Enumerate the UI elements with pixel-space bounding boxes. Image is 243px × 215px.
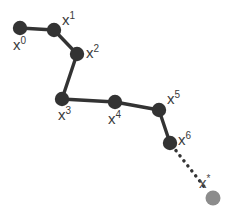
- point-label-base: x: [58, 106, 66, 123]
- point-label-x5: x5: [167, 90, 180, 106]
- iterate-point-marker: [70, 47, 84, 61]
- optimization-path-diagram: x0x1x2x3x4x5x6x*: [0, 0, 243, 215]
- point-label-superscript: 3: [66, 105, 72, 116]
- point-label-base: x: [167, 90, 175, 107]
- point-label-x1: x1: [62, 11, 75, 27]
- iterate-point-marker: [47, 23, 61, 37]
- point-label-base: x: [13, 36, 21, 53]
- point-label-x3: x3: [58, 106, 71, 122]
- point-label-base: x: [108, 110, 116, 127]
- target-point-marker: [206, 191, 221, 206]
- point-label-x0: x0: [13, 36, 26, 52]
- point-label-base: x: [199, 174, 207, 191]
- point-label-x4: x4: [108, 110, 121, 126]
- iterate-point-marker: [163, 136, 177, 150]
- point-label-base: x: [86, 44, 94, 61]
- point-label-superscript: 0: [21, 35, 27, 46]
- path-segment: [62, 99, 115, 102]
- point-label-x6: x6: [178, 131, 191, 147]
- point-label-superscript: 2: [94, 43, 100, 54]
- point-label-superscript: 5: [175, 89, 181, 100]
- iterate-point-marker: [108, 95, 122, 109]
- point-label-base: x: [178, 131, 186, 148]
- point-label-base: x: [62, 11, 70, 28]
- iterate-point-marker: [152, 103, 166, 117]
- point-label-xstar: x*: [199, 174, 210, 190]
- point-label-x2: x2: [86, 44, 99, 60]
- iterate-point-marker: [13, 21, 27, 35]
- point-label-superscript: 6: [186, 130, 192, 141]
- point-label-superscript: 4: [116, 109, 122, 120]
- point-label-superscript: *: [207, 173, 211, 184]
- point-label-superscript: 1: [70, 10, 76, 21]
